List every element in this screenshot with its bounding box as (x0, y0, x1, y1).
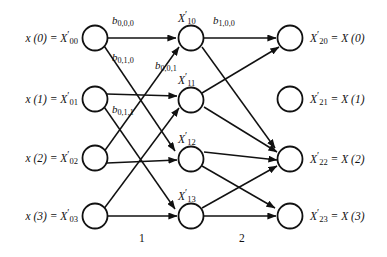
node-input-2[interactable] (83, 146, 108, 171)
edge-mid1-out1 (204, 107, 277, 152)
output-label-1: X′21 = X (1) (310, 91, 365, 107)
edge-mid2-out2 (204, 152, 277, 160)
input-label-2: x (2) = X′02 (10, 150, 78, 166)
edge-in1-mid1 (107, 94, 178, 96)
input-label-3: x (3) = X′03 (10, 208, 78, 224)
node-input-1[interactable] (83, 87, 108, 112)
coefficient-label-b000: b0,0,0 (112, 15, 134, 28)
node-middle-3[interactable] (179, 204, 204, 229)
node-middle-1[interactable] (179, 88, 204, 113)
output-label-0: X′20 = X (0) (310, 30, 365, 46)
fft-flow-graph-figure: x (0) = X′00 x (1) = X′01 x (2) = X′02 x… (0, 0, 387, 257)
coefficient-label-b011: b0,1,1 (112, 104, 134, 117)
edge-mid0-out1 (202, 47, 275, 148)
middle-node-label-1: X′11 (178, 72, 195, 88)
node-middle-2[interactable] (179, 147, 204, 172)
output-label-2: X′22 = X (2) (310, 151, 365, 167)
stage-label-2: 2 (239, 233, 245, 245)
input-label-1: x (1) = X′01 (10, 91, 78, 107)
node-middle-0[interactable] (179, 26, 204, 51)
input-label-0: x (0) = X′00 (10, 30, 78, 46)
output-label-3: X′23 = X (3) (310, 208, 365, 224)
node-input-0[interactable] (83, 26, 108, 51)
stage-2-edge-group (202, 38, 279, 216)
middle-node-label-3: X′13 (178, 188, 196, 204)
node-input-3[interactable] (83, 204, 108, 229)
node-output-3[interactable] (278, 204, 303, 229)
edge-mid1-out0 (202, 47, 279, 93)
middle-node-label-2: X′12 (178, 131, 196, 147)
middle-node-label-0: X′10 (178, 10, 196, 26)
node-output-2[interactable] (278, 147, 303, 172)
coefficient-label-b100: b1,0,0 (213, 15, 235, 28)
coefficient-label-b001: b0,0,1 (155, 60, 177, 73)
coefficient-label-b010: b0,1,0 (112, 52, 134, 65)
stage-label-1: 1 (139, 233, 145, 245)
node-output-1[interactable] (278, 87, 303, 112)
node-output-0[interactable] (278, 26, 303, 51)
